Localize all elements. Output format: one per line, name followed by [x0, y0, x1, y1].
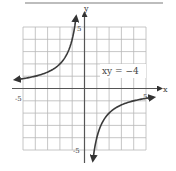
y-axis-label: y: [83, 4, 89, 13]
hyperbola-branch: [17, 18, 76, 79]
hyperbola-branch: [93, 97, 152, 158]
y-min-label: -5: [73, 147, 80, 155]
x-max-label: 5: [143, 93, 147, 101]
x-axis-label: x: [163, 85, 168, 94]
hyperbola-chart: y x -5 5 5 -5 xy = −4: [0, 0, 176, 171]
x-min-label: -5: [15, 95, 22, 103]
axes: [12, 14, 160, 163]
equation-label: xy = −4: [102, 66, 139, 76]
y-max-label: 5: [77, 25, 81, 33]
